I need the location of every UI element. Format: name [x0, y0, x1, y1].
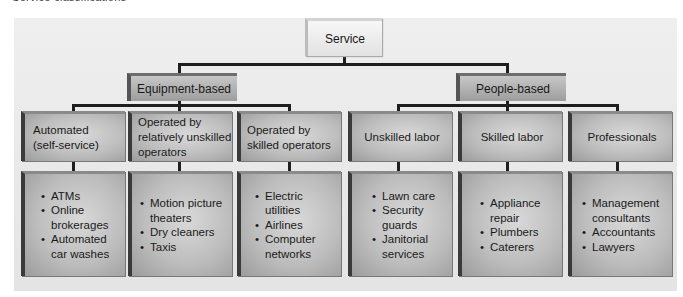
examples-list: Motion picture theaters Dry cleaners Tax… [140, 196, 232, 254]
example-item: Lawn care [372, 189, 452, 204]
root-label: Service [325, 32, 365, 46]
example-item: Caterers [480, 240, 562, 255]
connector-equipment-bar [72, 104, 291, 107]
subcategory-automated: Automated (self-service) [21, 111, 125, 161]
examples-automated: ATMs Online brokerages Automated car was… [21, 171, 125, 276]
example-item: Automated car washes [41, 232, 125, 261]
subcategory-skilled-operators: Operated by skilled operators [237, 111, 341, 161]
examples-professionals: Management consultants Accountants Lawye… [568, 171, 672, 276]
category-node-people-based: People-based [456, 73, 566, 101]
subcategory-label-line: operators [138, 145, 231, 160]
examples-list: Lawn care Security guards Janitorial ser… [372, 189, 452, 262]
category-label: Equipment-based [137, 82, 231, 96]
figure-caption: Service classifications [12, 0, 127, 3]
category-label: People-based [476, 82, 550, 96]
example-item: Airlines [255, 218, 341, 233]
subcategory-label-line: Operated by [247, 123, 331, 138]
example-item: Lawyers [582, 240, 672, 255]
examples-list: Electric utilities Airlines Computer net… [255, 189, 341, 262]
example-item: Dry cleaners [140, 225, 232, 240]
subcategory-label-line: Automated [33, 123, 99, 138]
example-item: Appliance repair [480, 196, 562, 225]
subcategory-unskilled-labor: Unskilled labor [348, 111, 452, 161]
subcategory-skilled-labor: Skilled labor [458, 111, 562, 161]
examples-unskilled-labor: Lawn care Security guards Janitorial ser… [348, 171, 452, 276]
example-item: Motion picture theaters [140, 196, 232, 225]
example-item: Management consultants [582, 196, 672, 225]
subcategory-label-line: Unskilled labor [364, 130, 439, 145]
connector-sub-6 [616, 161, 619, 171]
examples-list: ATMs Online brokerages Automated car was… [41, 189, 125, 262]
connector-sub-4 [397, 161, 400, 171]
example-item: Online brokerages [41, 203, 125, 232]
subcategory-label-line: (self-service) [33, 138, 99, 153]
subcategory-label-line: Operated by [138, 115, 231, 130]
connector-sub-1 [72, 161, 75, 171]
example-item: Taxis [140, 240, 232, 255]
connector-sub-3 [288, 161, 291, 171]
subcategory-relatively-unskilled-operators: Operated by relatively unskilled operato… [128, 111, 232, 161]
example-item: Accountants [582, 225, 672, 240]
subcategory-label-line: Skilled labor [481, 130, 544, 145]
examples-relatively-unskilled-operators: Motion picture theaters Dry cleaners Tax… [128, 171, 232, 276]
subcategory-label-line: relatively unskilled [138, 130, 231, 145]
examples-skilled-labor: Appliance repair Plumbers Caterers [458, 171, 562, 276]
example-item: Computer networks [255, 232, 341, 261]
subcategory-label-line: skilled operators [247, 138, 331, 153]
root-node-service: Service [305, 18, 382, 56]
examples-list: Appliance repair Plumbers Caterers [480, 196, 562, 254]
subcategory-professionals: Professionals [568, 111, 672, 161]
connector-root-bar [178, 63, 509, 66]
connector-sub-5 [506, 161, 509, 171]
examples-list: Management consultants Accountants Lawye… [582, 196, 672, 254]
category-node-equipment-based: Equipment-based [127, 73, 237, 101]
examples-skilled-operators: Electric utilities Airlines Computer net… [237, 171, 341, 276]
example-item: ATMs [41, 189, 125, 204]
example-item: Plumbers [480, 225, 562, 240]
subcategory-label-line: Professionals [587, 130, 656, 145]
example-item: Electric utilities [255, 189, 341, 218]
example-item: Security guards [372, 203, 452, 232]
example-item: Janitorial services [372, 232, 452, 261]
connector-sub-2 [178, 161, 181, 171]
